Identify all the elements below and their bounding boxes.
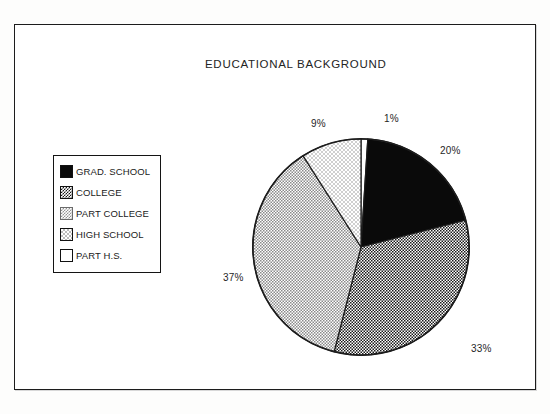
pie-chart [251,137,471,357]
legend-item-part-college[interactable]: PART COLLEGE [60,203,154,224]
legend-swatch-part-hs-icon [60,249,73,262]
pie-chart-svg [251,137,471,357]
legend-item-part-hs[interactable]: PART H.S. [60,245,154,266]
legend-label-part-hs: PART H.S. [76,250,122,261]
legend-label-college: COLLEGE [76,187,122,198]
legend-item-high-school[interactable]: HIGH SCHOOL [60,224,154,245]
legend-swatch-part-college-icon [60,207,73,220]
legend-label-part-college: PART COLLEGE [76,208,149,219]
legend-item-college[interactable]: COLLEGE [60,182,154,203]
figure-frame: EDUCATIONAL BACKGROUND GRAD. SCHOOL COLL… [14,24,536,390]
legend-label-high-school: HIGH SCHOOL [76,229,144,240]
legend-item-grad-school[interactable]: GRAD. SCHOOL [60,161,154,182]
pie-label-part-college: 37% [223,272,244,283]
pie-label-part-hs: 1% [384,113,399,124]
pie-slice-group [253,139,469,355]
legend-swatch-high-school-icon [60,228,73,241]
legend-swatch-grad-school-icon [60,165,73,178]
page-title: EDUCATIONAL BACKGROUND [205,58,387,70]
legend-label-grad-school: GRAD. SCHOOL [76,166,150,177]
pie-label-high-school: 9% [311,118,326,129]
chart-legend: GRAD. SCHOOL COLLEGE PART COLLEGE HIGH S… [53,155,161,273]
page-canvas: EDUCATIONAL BACKGROUND GRAD. SCHOOL COLL… [0,0,550,414]
pie-label-college: 33% [471,343,492,354]
legend-swatch-college-icon [60,186,73,199]
pie-label-grad-school: 20% [440,145,461,156]
